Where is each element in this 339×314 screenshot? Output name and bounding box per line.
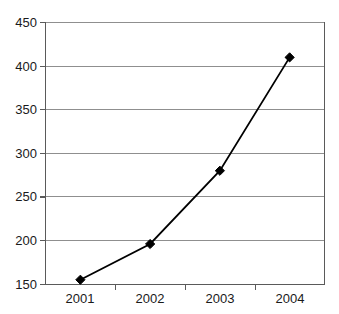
y-tick-label-400: 400	[15, 59, 37, 74]
line-chart: 450 400 350 300 250 200 150 2001 2002 20…	[0, 0, 339, 314]
x-tick-label-2001: 2001	[66, 291, 95, 306]
y-tick-label-150: 150	[15, 277, 37, 292]
series-markers	[76, 53, 294, 285]
y-tick-label-450: 450	[15, 15, 37, 30]
y-tick-labels: 450 400 350 300 250 200 150	[15, 15, 37, 292]
x-tick-label-2004: 2004	[276, 291, 305, 306]
data-series	[76, 53, 294, 285]
x-tick-label-2003: 2003	[206, 291, 235, 306]
series-line	[80, 57, 289, 279]
y-tick-label-350: 350	[15, 102, 37, 117]
chart-canvas: 450 400 350 300 250 200 150 2001 2002 20…	[0, 0, 339, 314]
x-tick-labels: 2001 2002 2003 2004	[66, 291, 305, 306]
y-tick-label-300: 300	[15, 146, 37, 161]
x-tick-label-2002: 2002	[136, 291, 165, 306]
x-tick-marks	[116, 284, 256, 290]
y-tick-label-200: 200	[15, 233, 37, 248]
y-tick-label-250: 250	[15, 189, 37, 204]
data-point-2004	[285, 53, 294, 62]
data-point-2001	[76, 275, 85, 284]
y-tick-marks	[40, 23, 45, 285]
